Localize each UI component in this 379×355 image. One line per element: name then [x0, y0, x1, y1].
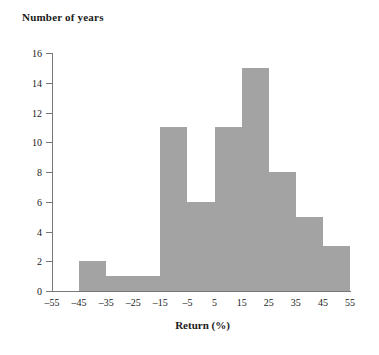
chart-title: Number of years [22, 11, 104, 23]
x-tick-label: 5 [212, 297, 217, 308]
y-tick-label: 0 [16, 286, 42, 297]
y-tick-label: 10 [16, 137, 42, 148]
y-tick-label: 4 [16, 226, 42, 237]
x-tick-label: –55 [45, 297, 60, 308]
histogram-chart: Number of years 0246810121416 –55–45–35–… [0, 0, 379, 355]
x-tick-label: –35 [99, 297, 114, 308]
x-axis-title: Return (%) [0, 319, 379, 331]
histogram-bar [323, 246, 350, 291]
histogram-bar [79, 261, 106, 291]
y-tick-mark [46, 291, 53, 292]
x-tick-label: 55 [345, 297, 355, 308]
y-tick-label: 14 [16, 77, 42, 88]
y-tick-label: 6 [16, 196, 42, 207]
x-tick-label: –25 [126, 297, 141, 308]
x-axis-line [52, 291, 351, 292]
histogram-bar [187, 202, 214, 291]
x-axis-title-label: Return (%) [175, 319, 230, 331]
x-tick-label: 25 [264, 297, 274, 308]
x-tick-label: –15 [153, 297, 168, 308]
histogram-bar [133, 276, 160, 291]
histogram-bar [160, 127, 187, 291]
histogram-bar [106, 276, 133, 291]
x-tick-label: 15 [237, 297, 247, 308]
histogram-bar [269, 172, 296, 291]
y-tick-label: 12 [16, 107, 42, 118]
histogram-bar [296, 217, 323, 291]
y-tick-label: 8 [16, 167, 42, 178]
x-tick-label: 35 [291, 297, 301, 308]
x-tick-label: –45 [72, 297, 87, 308]
y-tick-label: 2 [16, 256, 42, 267]
histogram-bar [242, 68, 269, 291]
y-tick-label: 16 [16, 48, 42, 59]
x-tick-label: –5 [182, 297, 192, 308]
histogram-bar [215, 127, 242, 291]
x-tick-label: 45 [318, 297, 328, 308]
plot-area [52, 53, 350, 291]
